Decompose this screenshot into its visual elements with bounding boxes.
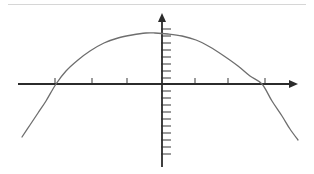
figure-canvas [0,0,314,174]
parabola-figure [0,0,314,174]
figure-background [0,0,314,174]
